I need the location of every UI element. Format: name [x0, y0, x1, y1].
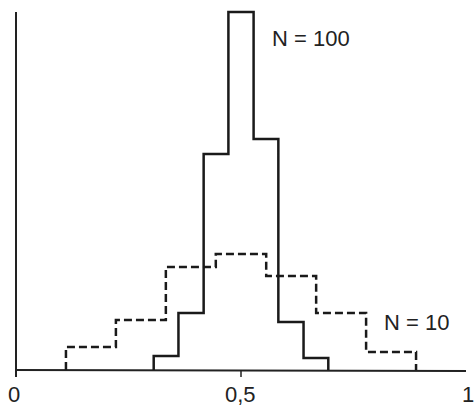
annotation-n10: N = 10	[384, 310, 449, 336]
x-tick-label-0: 0	[8, 382, 20, 408]
x-tick-label-05: 0,5	[225, 382, 256, 408]
histogram-line	[154, 12, 329, 370]
series-n100	[154, 12, 329, 370]
series-n10	[66, 254, 416, 370]
histogram-line	[66, 254, 416, 370]
annotation-n100: N = 100	[272, 26, 350, 52]
x-tick-label-1: 1	[462, 382, 474, 408]
